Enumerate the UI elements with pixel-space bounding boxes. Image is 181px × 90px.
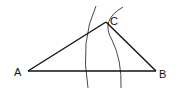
label-a: A bbox=[14, 66, 22, 78]
label-b: B bbox=[159, 68, 166, 80]
label-c: C bbox=[110, 15, 118, 27]
segment-ac bbox=[28, 22, 106, 71]
triangle-construction-diagram: A B C bbox=[0, 0, 181, 90]
arc-left bbox=[85, 6, 96, 88]
segment-cb bbox=[106, 22, 156, 71]
